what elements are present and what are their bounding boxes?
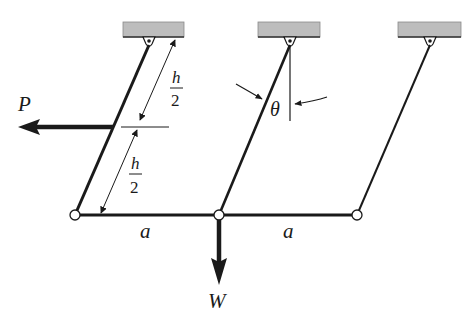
force-w-arrowhead-icon xyxy=(211,258,227,285)
label-h-over-2-lower: h 2 xyxy=(129,154,142,197)
support-left xyxy=(123,22,184,47)
mechanism-diagram: θ h 2 h 2 P W a a xyxy=(0,0,475,325)
bar-right xyxy=(357,45,430,215)
angle-arrow-left-icon xyxy=(236,84,262,99)
bar-middle xyxy=(219,45,290,215)
span-right-label: a xyxy=(283,219,294,243)
span-left-label: a xyxy=(140,219,151,243)
svg-text:h: h xyxy=(131,154,140,173)
svg-text:h: h xyxy=(172,68,181,87)
force-p-label: P xyxy=(17,92,31,116)
angle-label: θ xyxy=(270,98,280,120)
angle-arrow-right-icon xyxy=(295,97,327,104)
node-c xyxy=(352,210,362,220)
node-a xyxy=(70,210,80,220)
svg-text:2: 2 xyxy=(130,178,139,197)
svg-text:2: 2 xyxy=(171,91,180,110)
support-right xyxy=(398,22,461,47)
support-middle xyxy=(258,22,320,47)
node-b xyxy=(214,210,224,220)
label-h-over-2-upper: h 2 xyxy=(170,68,183,110)
force-w-label: W xyxy=(208,289,228,313)
